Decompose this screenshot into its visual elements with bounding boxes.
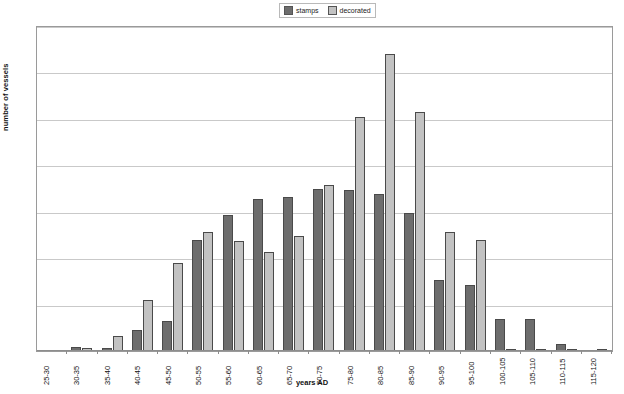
bar-stamps <box>283 197 293 351</box>
bar-group <box>188 27 218 351</box>
x-tick-mark <box>429 351 430 354</box>
bar-decorated <box>355 117 365 351</box>
bar-group <box>158 27 188 351</box>
bar-decorated <box>476 240 486 351</box>
bar-group <box>98 27 128 351</box>
bar-stamps <box>404 213 414 351</box>
x-tick-mark <box>127 351 128 354</box>
x-tick-mark <box>187 351 188 354</box>
bar-stamps <box>344 190 354 351</box>
bar-decorated <box>385 54 395 351</box>
bar-group <box>430 27 460 351</box>
x-tick-mark <box>278 351 279 354</box>
bar-stamps <box>374 194 384 351</box>
decorated-swatch-icon <box>328 6 337 15</box>
stamps-swatch-icon <box>284 6 293 15</box>
x-tick-mark <box>460 351 461 354</box>
x-tick-mark <box>218 351 219 354</box>
bar-group <box>491 27 521 351</box>
x-tick-mark <box>339 351 340 354</box>
bar-stamps <box>525 319 535 352</box>
bar-decorated <box>324 185 334 351</box>
x-tick-mark <box>520 351 521 354</box>
bar-decorated <box>415 112 425 351</box>
legend-label-stamps: stamps <box>296 7 319 14</box>
bar-group <box>309 27 339 351</box>
x-tick-mark <box>308 351 309 354</box>
bar-stamps <box>223 215 233 351</box>
x-tick-mark <box>369 351 370 354</box>
bar-group <box>279 27 309 351</box>
legend-item-decorated: decorated <box>328 6 371 15</box>
x-tick-mark <box>97 351 98 354</box>
bar-decorated <box>294 236 304 351</box>
x-tick-mark <box>399 351 400 354</box>
bar-stamps <box>313 189 323 352</box>
x-axis-line <box>37 350 612 351</box>
x-tick-mark <box>248 351 249 354</box>
chart-legend: stamps decorated <box>279 3 376 18</box>
bar-stamps <box>192 240 202 351</box>
bar-decorated <box>445 232 455 351</box>
bar-group <box>128 27 158 351</box>
plot-area <box>36 26 613 352</box>
bar-groups <box>37 27 612 351</box>
legend-label-decorated: decorated <box>340 7 371 14</box>
bar-stamps <box>434 280 444 352</box>
bar-decorated <box>264 252 274 351</box>
bar-stamps <box>132 330 142 351</box>
bar-group <box>340 27 370 351</box>
bar-group <box>37 27 67 351</box>
bar-stamps <box>162 321 172 351</box>
bar-decorated <box>113 336 123 351</box>
bar-group <box>219 27 249 351</box>
y-axis-title: number of vessels <box>1 63 10 131</box>
x-tick-mark <box>581 351 582 354</box>
x-tick-mark <box>66 351 67 354</box>
bar-stamps <box>465 285 475 351</box>
bar-group <box>370 27 400 351</box>
x-tick-mark <box>157 351 158 354</box>
legend-item-stamps: stamps <box>284 6 319 15</box>
bar-stamps <box>495 319 505 352</box>
x-tick-mark <box>551 351 552 354</box>
bar-group <box>67 27 97 351</box>
bar-group <box>249 27 279 351</box>
x-tick-mark <box>490 351 491 354</box>
bar-group <box>461 27 491 351</box>
bar-decorated <box>203 232 213 351</box>
bar-group <box>552 27 582 351</box>
x-tick-mark <box>611 351 612 354</box>
bar-group <box>582 27 612 351</box>
bar-chart: stamps decorated number of vessels 05101… <box>0 0 624 394</box>
x-axis-title: years AD <box>0 378 624 387</box>
bar-group <box>400 27 430 351</box>
bar-decorated <box>173 263 183 351</box>
bar-decorated <box>234 241 244 351</box>
bar-decorated <box>143 300 153 351</box>
bar-group <box>521 27 551 351</box>
bar-stamps <box>253 199 263 351</box>
